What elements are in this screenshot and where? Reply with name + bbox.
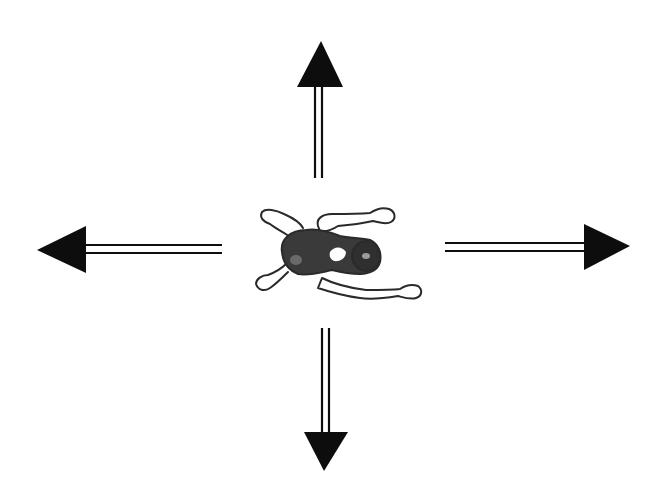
movement-diagram — [0, 0, 660, 503]
